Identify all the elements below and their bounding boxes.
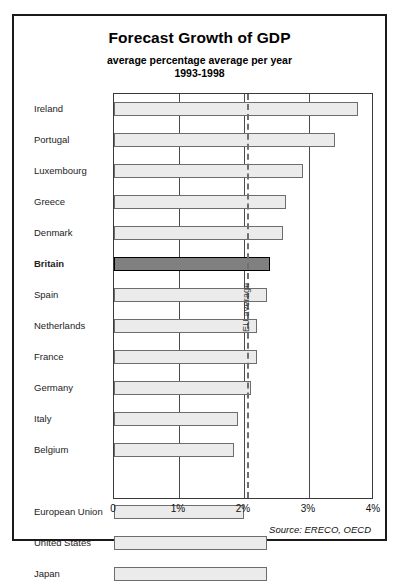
x-tick-3%: 3% [301,503,315,514]
category-label-france: France [34,341,110,372]
category-label-united-states: United States [34,527,110,558]
category-label-european-union: European Union [34,496,110,527]
category-label-portugal: Portugal [34,124,110,155]
bar-belgium [114,443,234,457]
x-tick-0: 0 [110,503,116,514]
bar-germany [114,381,251,395]
bar-luxembourg [114,164,303,178]
category-label-denmark: Denmark [34,217,110,248]
eu-average-label: EU average [241,282,251,332]
category-label-japan: Japan [34,558,110,585]
bar-japan [114,567,267,581]
category-label-spain: Spain [34,279,110,310]
bar-row [114,156,372,187]
bar-france [114,350,257,364]
bar-row [114,559,372,585]
category-label-germany: Germany [34,372,110,403]
bar-row [114,187,372,218]
category-label-netherlands: Netherlands [34,310,110,341]
bar-row [114,373,372,404]
x-tick-4%: 4% [366,503,380,514]
bar-row [114,249,372,280]
x-tick-1%: 1% [171,503,185,514]
category-label-ireland: Ireland [34,93,110,124]
bar-row [114,435,372,466]
category-label-greece: Greece [34,186,110,217]
bar-row [114,125,372,156]
bar-ireland [114,102,358,116]
bar-row [114,94,372,125]
bar-row [114,404,372,435]
bar-row [114,342,372,373]
category-label-britain: Britain [34,248,110,279]
bar-greece [114,195,286,209]
category-label-luxembourg: Luxembourg [34,155,110,186]
source-note: Source: ERECO, OECD [269,524,371,535]
bar-row [114,218,372,249]
chart-figure-frame: Forecast Growth of GDP average percentag… [12,14,387,541]
bar-united-states [114,536,267,550]
bar-portugal [114,133,335,147]
plot-area: EU average [113,93,373,499]
bar-row [114,466,372,497]
bar-denmark [114,226,283,240]
x-tick-2%: 2% [236,503,250,514]
category-label-italy: Italy [34,403,110,434]
bar-italy [114,412,238,426]
plot-wrapper: IrelandPortugalLuxembourgGreeceDenmarkBr… [14,16,385,539]
x-axis-tick-labels: 01%2%3%4% [113,503,373,519]
category-label-belgium: Belgium [34,434,110,465]
bar-netherlands [114,319,257,333]
